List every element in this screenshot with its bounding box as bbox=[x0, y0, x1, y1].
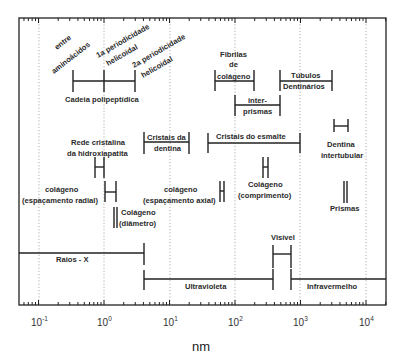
tick-label-1e3: 103 bbox=[293, 315, 308, 328]
tick-label-1e4: 104 bbox=[359, 315, 374, 328]
range-cristais-esmalte: Cristais do esmalte bbox=[208, 132, 300, 153]
label-cristais-esmalte: Cristais do esmalte bbox=[216, 132, 286, 141]
label-colageno-axial: colágeno bbox=[164, 185, 198, 194]
range-dentina-intertubular: Dentina intertubular bbox=[321, 119, 363, 160]
scale-diagram: 10-1 100 101 102 103 104 nm Cadeia polip… bbox=[0, 0, 401, 363]
x-tick-labels: 10-1 100 101 102 103 104 bbox=[31, 315, 374, 328]
label-entre: entre bbox=[53, 33, 73, 52]
range-rede-cristalina: Rede cristalina da hidroxiapatita bbox=[67, 138, 129, 178]
label-dentinarios: Dentinários bbox=[283, 82, 325, 91]
tick-label-1e-1: 10-1 bbox=[31, 315, 48, 328]
label-diametro: (diâmetro) bbox=[119, 219, 157, 228]
label-dentina-intertubular-2: intertubular bbox=[321, 151, 363, 160]
range-visivel: Visível bbox=[271, 233, 295, 268]
label-fibrilas: Fibrilas bbox=[220, 50, 247, 59]
rotated-labels: entre aminoácidos 1a periodicidade helic… bbox=[50, 22, 187, 80]
tick-label-1e2: 102 bbox=[228, 315, 243, 328]
label-prismas: Prismas bbox=[330, 204, 360, 213]
label-colageno-radial: colágeno bbox=[45, 185, 79, 194]
label-prismas-inter: prismas bbox=[243, 107, 272, 116]
range-fibrilas-colageno: Fibrilas de colágeno bbox=[215, 50, 254, 91]
label-raios-x: Raios - X bbox=[56, 255, 89, 264]
range-ultravioleta: Ultravioleta bbox=[144, 269, 273, 291]
range-infravermelho: Infravermelho bbox=[291, 269, 386, 291]
label-inter: inter- bbox=[248, 96, 267, 105]
range-raios-x: Raios - X bbox=[19, 243, 144, 265]
label-ultravioleta: Ultravioleta bbox=[185, 282, 227, 291]
label-espacamento-radial: (espaçamento radial) bbox=[22, 196, 98, 205]
label-hidroxiapatita: da hidroxiapatita bbox=[67, 149, 129, 158]
label-espacamento-axial: (espaçamento axial) bbox=[143, 196, 216, 205]
label-de: de bbox=[229, 60, 238, 69]
tick-label-1e1: 101 bbox=[163, 315, 178, 328]
range-cristais-dentina: Cristais da dentina bbox=[144, 132, 189, 154]
label-rede-cristalina: Rede cristalina bbox=[71, 138, 126, 147]
range-colageno-comprimento: Colágeno (comprimento) bbox=[238, 157, 292, 200]
label-colageno-comprimento: Colágeno bbox=[248, 180, 283, 189]
range-colageno-radial: colágeno (espaçamento radial) bbox=[22, 181, 116, 205]
range-colageno-diametro: Colágeno (diâmetro) bbox=[114, 207, 157, 228]
label-comprimento: (comprimento) bbox=[238, 191, 292, 200]
range-tubulos-dentinarios: Túbulos Dentinários bbox=[280, 70, 332, 91]
tick-label-1e0: 100 bbox=[97, 315, 112, 328]
range-cadeia-polipeptidica: Cadeia polipeptídica bbox=[65, 70, 140, 104]
label-colageno-fibrilas: colágeno bbox=[217, 72, 251, 81]
label-dentina-intertubular-1: Dentina bbox=[327, 140, 356, 149]
label-cadeia: Cadeia polipeptídica bbox=[65, 95, 140, 104]
label-dentina: dentina bbox=[154, 144, 182, 153]
range-prismas: Prismas bbox=[330, 181, 360, 213]
label-visivel: Visível bbox=[271, 233, 295, 242]
label-tubulos: Túbulos bbox=[291, 71, 321, 80]
range-inter-prismas: inter- prismas bbox=[235, 95, 280, 116]
label-cristais-da: Cristais da bbox=[147, 133, 187, 142]
label-colageno-diametro: Colágeno bbox=[121, 208, 156, 217]
range-colageno-axial: colágeno (espaçamento axial) bbox=[143, 181, 224, 205]
label-infravermelho: Infravermelho bbox=[307, 282, 358, 291]
x-axis-title: nm bbox=[192, 339, 210, 354]
